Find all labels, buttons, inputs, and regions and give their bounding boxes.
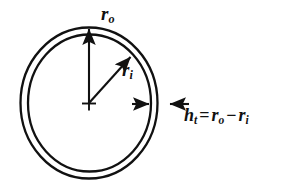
thickness-symbol: h <box>184 105 194 125</box>
inner-radius-label: ri <box>122 60 133 79</box>
annulus-diagram-figure: ro ri ht=ro−ri <box>0 0 284 190</box>
inner-radius-subscript: i <box>129 68 132 82</box>
thickness-subscript: t <box>194 114 197 126</box>
minus-sign: − <box>224 105 238 125</box>
equation-inner-subscript: i <box>246 114 249 126</box>
outer-radius-label: ro <box>101 4 114 23</box>
equation-outer-symbol: r <box>211 105 218 125</box>
thickness-equation-label: ht=ro−ri <box>184 106 249 124</box>
equation-outer-subscript: o <box>219 114 225 126</box>
equation-inner-symbol: r <box>239 105 246 125</box>
diagram-canvas <box>0 0 284 190</box>
equals-sign: = <box>197 105 211 125</box>
outer-radius-subscript: o <box>108 12 114 26</box>
